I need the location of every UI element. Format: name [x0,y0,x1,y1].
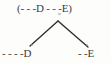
left-branch-line [30,21,58,46]
left-leaf-node-label: - - - -D [2,47,31,59]
scan-speckle [86,44,88,46]
scan-speckle [31,44,33,46]
root-node-label: (- - -D - - -E) [17,2,72,14]
scan-speckle [58,13,61,15]
right-branch-line [58,21,88,47]
tree-diagram: (- - -D - - -E) - - - -D - -E [0,0,111,63]
right-leaf-node-label: - -E [78,47,94,59]
